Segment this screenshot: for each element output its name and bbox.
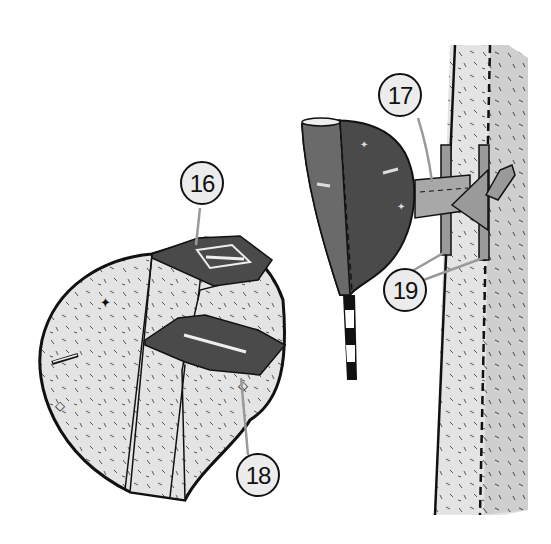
callout-label-17: 16	[190, 170, 215, 197]
leader-16	[418, 118, 432, 182]
assembly-diagram: ✦ ✦ ✦ ◇	[0, 0, 551, 544]
post	[435, 45, 528, 515]
callout-label-19: 19	[393, 277, 418, 304]
dome-top-opening	[302, 118, 340, 126]
striped-stake	[343, 295, 357, 380]
dome-star-mark: ✦	[397, 201, 405, 212]
diagram-svg: ✦ ✦ ✦ ◇	[0, 0, 551, 544]
callout-18: 18	[237, 454, 279, 496]
callout-17: 16	[181, 162, 223, 204]
leader-19a	[414, 252, 445, 270]
shell-star-mark: ◇	[55, 398, 65, 413]
callout-16: 17	[379, 74, 421, 116]
callout-label-18: 18	[246, 462, 271, 489]
dome-slot	[317, 184, 330, 186]
callout-19: 19	[384, 269, 426, 311]
shell-star-mark: ✦	[100, 295, 111, 310]
callout-label-16: 17	[388, 82, 413, 109]
dome-star-mark: ✦	[360, 139, 368, 150]
closed-dome: ✦ ✦	[302, 118, 414, 295]
